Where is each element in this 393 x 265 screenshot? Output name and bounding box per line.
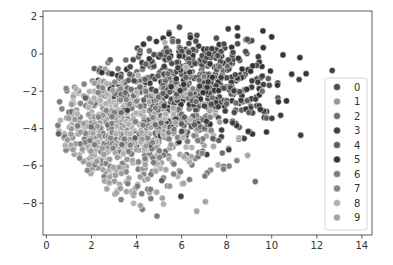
data-point bbox=[219, 150, 225, 156]
data-point bbox=[189, 145, 195, 151]
data-point bbox=[119, 142, 125, 148]
data-point bbox=[163, 167, 169, 173]
data-point bbox=[94, 158, 100, 164]
data-point bbox=[232, 72, 238, 78]
data-point bbox=[237, 89, 243, 95]
data-point bbox=[152, 122, 158, 128]
data-point bbox=[158, 52, 164, 58]
data-point bbox=[153, 88, 159, 94]
data-point bbox=[260, 45, 266, 51]
data-point bbox=[107, 156, 113, 162]
data-point bbox=[132, 119, 138, 125]
data-point bbox=[69, 101, 75, 107]
data-point bbox=[117, 185, 123, 191]
legend-marker bbox=[334, 171, 341, 178]
data-point bbox=[165, 71, 171, 77]
data-point bbox=[177, 169, 183, 175]
legend-label: 5 bbox=[354, 154, 360, 165]
data-point bbox=[253, 96, 259, 102]
data-point bbox=[99, 70, 105, 76]
data-point bbox=[59, 106, 65, 112]
data-point bbox=[148, 186, 154, 192]
data-point bbox=[90, 130, 96, 136]
data-point bbox=[187, 35, 193, 41]
data-point bbox=[250, 63, 256, 69]
data-point bbox=[88, 124, 94, 130]
data-point bbox=[77, 141, 83, 147]
data-point bbox=[245, 152, 251, 158]
data-point bbox=[137, 84, 143, 90]
data-point bbox=[134, 98, 140, 104]
data-point bbox=[146, 56, 152, 62]
data-point bbox=[133, 110, 139, 116]
data-point bbox=[171, 161, 177, 167]
data-point bbox=[191, 122, 197, 128]
data-point bbox=[186, 176, 192, 182]
data-point bbox=[82, 95, 88, 101]
data-point bbox=[219, 127, 225, 133]
data-point bbox=[215, 104, 221, 110]
data-point bbox=[66, 115, 72, 121]
data-point bbox=[57, 99, 63, 105]
data-point bbox=[168, 84, 174, 90]
data-point bbox=[179, 128, 185, 134]
legend-label: 2 bbox=[354, 111, 360, 122]
data-point bbox=[205, 79, 211, 85]
data-point bbox=[289, 71, 295, 77]
data-point bbox=[183, 74, 189, 80]
data-point bbox=[234, 25, 240, 31]
legend-marker bbox=[334, 156, 341, 163]
data-point bbox=[109, 71, 115, 77]
data-point bbox=[155, 73, 161, 79]
data-point bbox=[142, 162, 148, 168]
legend-marker bbox=[334, 214, 341, 221]
data-point bbox=[329, 67, 335, 73]
data-point bbox=[222, 108, 228, 114]
y-tick-label: −4 bbox=[22, 123, 37, 134]
data-point bbox=[156, 148, 162, 154]
data-point bbox=[196, 43, 202, 49]
data-point bbox=[55, 122, 61, 128]
data-point bbox=[138, 129, 144, 135]
data-point bbox=[159, 177, 165, 183]
data-point bbox=[239, 66, 245, 72]
data-point bbox=[186, 49, 192, 55]
data-point bbox=[148, 195, 154, 201]
scatter-points bbox=[55, 24, 336, 219]
data-point bbox=[140, 41, 146, 47]
data-point bbox=[269, 34, 275, 40]
data-point bbox=[160, 132, 166, 138]
data-point bbox=[170, 38, 176, 44]
data-point bbox=[193, 98, 199, 104]
data-point bbox=[215, 53, 221, 59]
data-point bbox=[177, 88, 183, 94]
data-point bbox=[199, 150, 205, 156]
data-point bbox=[116, 164, 122, 170]
data-point bbox=[91, 95, 97, 101]
data-point bbox=[161, 63, 167, 69]
data-point bbox=[143, 88, 149, 94]
data-point bbox=[235, 55, 241, 61]
data-point bbox=[92, 142, 98, 148]
data-point bbox=[259, 73, 265, 79]
data-point bbox=[151, 159, 157, 165]
data-point bbox=[208, 101, 214, 107]
data-point bbox=[234, 158, 240, 164]
data-point bbox=[267, 68, 273, 74]
data-point bbox=[246, 109, 252, 115]
data-point bbox=[202, 199, 208, 205]
data-point bbox=[64, 137, 70, 143]
data-point bbox=[163, 111, 169, 117]
data-point bbox=[131, 78, 137, 84]
data-point bbox=[175, 65, 181, 71]
data-point bbox=[213, 35, 219, 41]
data-point bbox=[235, 33, 241, 39]
data-point bbox=[244, 86, 250, 92]
data-point bbox=[210, 143, 216, 149]
data-point bbox=[221, 41, 227, 47]
data-point bbox=[74, 111, 80, 117]
data-point bbox=[153, 168, 159, 174]
data-point bbox=[192, 61, 198, 67]
data-point bbox=[176, 53, 182, 59]
data-point bbox=[207, 108, 213, 114]
